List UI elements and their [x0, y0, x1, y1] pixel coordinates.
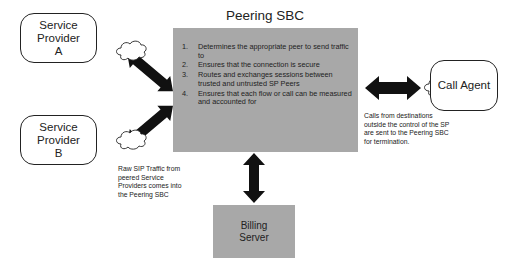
- sbc-function-item: 1. Determines the appropriate peer to se…: [178, 43, 356, 60]
- sbc-title: Peering SBC: [200, 8, 330, 23]
- service-provider-b-id: B: [21, 147, 96, 160]
- item-number: 1.: [178, 43, 198, 60]
- sbc-function-item: 2. Ensures that the connection is secure: [178, 61, 356, 70]
- sbc-function-item: 3. Routes and exchanges sessions between…: [178, 71, 356, 88]
- service-provider-b-node[interactable]: Service Provider B: [20, 115, 97, 165]
- item-number: 4.: [178, 90, 198, 107]
- item-number: 3.: [178, 71, 198, 88]
- billing-server-line2: Server: [239, 232, 268, 244]
- calls-from-destinations-note: Calls from destinations outside the cont…: [364, 112, 450, 146]
- cloud-icon: [117, 41, 147, 60]
- call-agent-label: Call Agent: [438, 79, 490, 92]
- raw-sip-note: Raw SIP Traffic from peered Service Prov…: [118, 165, 190, 199]
- item-text: Determines the appropriate peer to send …: [198, 43, 356, 60]
- item-text: Ensures that each flow or call can be me…: [198, 90, 356, 107]
- service-provider-a-id: A: [21, 45, 96, 58]
- service-provider-a-label: Service Provider: [21, 19, 96, 45]
- item-text: Routes and exchanges sessions between tr…: [198, 71, 356, 88]
- call-agent-node[interactable]: Call Agent: [430, 60, 498, 111]
- double-arrow-sbc-call-agent: [365, 76, 421, 100]
- billing-server-line1: Billing: [239, 220, 268, 232]
- item-number: 2.: [178, 61, 198, 70]
- sbc-function-item: 4. Ensures that each flow or call can be…: [178, 90, 356, 107]
- billing-server-node[interactable]: Billing Server: [213, 205, 295, 258]
- item-text: Ensures that the connection is secure: [198, 61, 320, 70]
- double-arrow-sbc-billing: [243, 153, 265, 203]
- service-provider-b-label: Service Provider: [21, 121, 96, 147]
- sbc-function-list: 1. Determines the appropriate peer to se…: [178, 43, 356, 108]
- service-provider-a-node[interactable]: Service Provider A: [20, 13, 97, 63]
